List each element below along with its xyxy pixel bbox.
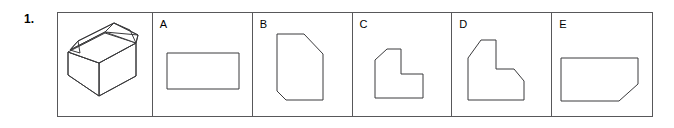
stem-cell — [58, 13, 153, 116]
question-number: 1. — [24, 12, 34, 26]
option-cell-b[interactable]: B — [253, 13, 353, 116]
option-figure-a — [153, 13, 253, 116]
option-cell-e[interactable]: E — [552, 13, 652, 116]
options-panel-row: A B C D E — [57, 12, 653, 117]
option-figure-c — [353, 13, 453, 116]
question-block: 1. — [0, 0, 674, 128]
option-cell-c[interactable]: C — [353, 13, 453, 116]
option-figure-d — [452, 13, 552, 116]
isometric-stepped-block-figure — [58, 13, 153, 116]
option-figure-b — [253, 13, 353, 116]
option-figure-e — [552, 13, 652, 116]
option-cell-d[interactable]: D — [452, 13, 552, 116]
option-cell-a[interactable]: A — [153, 13, 253, 116]
